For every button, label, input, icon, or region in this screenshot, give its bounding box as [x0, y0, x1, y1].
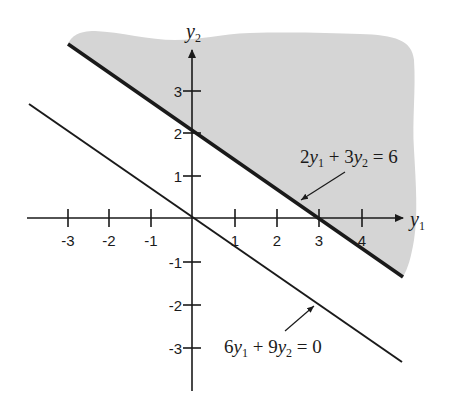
y-tick-label: 1 [174, 168, 182, 185]
equation-label-6y1-9y2-0: 6y1 + 9y2 = 0 [224, 336, 322, 360]
chart-figure: -3 -2 -1 1 2 3 4 3 2 1 -1 -2 -3 y2 y1 2y… [0, 0, 451, 412]
x-tick-label: -3 [61, 232, 74, 249]
y1-axis-label: y1 [408, 208, 425, 233]
y-tick-label: 2 [174, 125, 182, 142]
y-tick-label: -1 [169, 254, 182, 271]
y2-axis-label: y2 [184, 20, 201, 45]
x-tick-label: -1 [144, 232, 157, 249]
x-tick-label: 3 [315, 232, 323, 249]
y-tick-label: 3 [174, 83, 182, 100]
plot-canvas: -3 -2 -1 1 2 3 4 3 2 1 -1 -2 -3 y2 y1 2y… [0, 0, 451, 412]
equation-label-2y1-3y2-6: 2y1 + 3y2 = 6 [300, 146, 398, 170]
y-tick-label: -3 [169, 340, 182, 357]
x-tick-label: 2 [273, 232, 281, 249]
annotation-arrow-line2 [285, 306, 314, 331]
y-tick-label: -2 [169, 297, 182, 314]
x-tick-label: -2 [102, 232, 115, 249]
